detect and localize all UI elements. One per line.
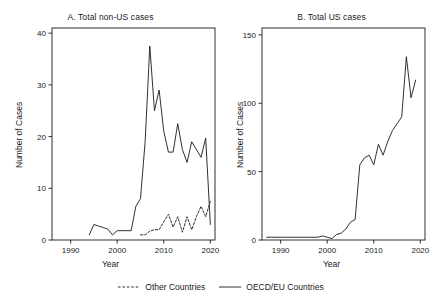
solid-line-swatch-icon	[219, 284, 241, 290]
panel-a-x-tick-label: 2000	[108, 246, 126, 255]
panel-a-series-solid	[89, 46, 210, 235]
dashed-line-swatch-icon	[118, 284, 140, 290]
panel-a-y-tick-label: 40	[24, 29, 46, 38]
panel-a-y-tick-label: 0	[24, 236, 46, 245]
chart-legend: Other Countries OECD/EU Countries	[0, 278, 442, 296]
legend-label-oecd-eu-countries: OECD/EU Countries	[246, 282, 323, 292]
panel-a-y-tick-label: 30	[24, 80, 46, 89]
panel-b-x-tick-label: 2020	[411, 246, 429, 255]
panel-b-x-tick-label: 2010	[365, 246, 383, 255]
panel-a-y-tick-label: 20	[24, 132, 46, 141]
panel-a-series-dashed	[140, 201, 210, 235]
panel-b-y-axis-label: Number of Cases	[235, 102, 245, 168]
legend-label-other-countries: Other Countries	[145, 282, 205, 292]
panel-b-y-tick-label: 150	[234, 30, 256, 39]
legend-entry-other-countries: Other Countries	[118, 282, 205, 292]
panel-b-series-solid	[267, 57, 416, 239]
chart-panel-a: A. Total non-US cases Number of Cases Ye…	[0, 0, 221, 272]
panel-b-plot	[221, 0, 442, 272]
legend-entry-oecd-eu-countries: OECD/EU Countries	[219, 282, 323, 292]
panel-b-x-tick-label: 2000	[318, 246, 336, 255]
chart-panel-b: B. Total US cases Year 19902000201020200…	[221, 0, 442, 272]
figure-container: A. Total non-US cases Number of Cases Ye…	[0, 0, 442, 305]
panel-a-x-tick-label: 2010	[155, 246, 173, 255]
panel-a-x-tick-label: 2020	[201, 246, 219, 255]
panel-b-x-tick-label: 1990	[272, 246, 290, 255]
panel-b-plot-frame	[262, 28, 425, 240]
panel-a-y-tick-label: 10	[24, 184, 46, 193]
panel-a-plot-frame	[52, 28, 215, 240]
panel-b-y-tick-label: 50	[234, 167, 256, 176]
panel-b-y-tick-label: 0	[234, 236, 256, 245]
panel-a-x-tick-label: 1990	[62, 246, 80, 255]
